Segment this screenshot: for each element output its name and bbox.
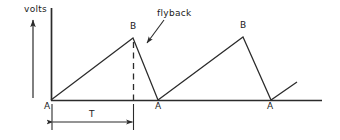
peak-label-b-first: B: [130, 22, 136, 31]
trough-label-a-first: A: [44, 102, 50, 111]
sawtooth-waveform-figure: volts flyback B B A A A T: [0, 0, 340, 140]
flyback-leader-line: [147, 20, 164, 43]
y-axis-label: volts: [24, 5, 47, 14]
trough-label-a-second: A: [155, 102, 161, 111]
sawtooth-waveform-trace: [51, 37, 297, 100]
trough-label-a-third: A: [267, 102, 273, 111]
flyback-annotation-label: flyback: [157, 9, 191, 18]
waveform-drawing-canvas: [0, 0, 340, 140]
period-dimension-label: T: [89, 110, 95, 119]
peak-label-b-second: B: [240, 21, 246, 30]
